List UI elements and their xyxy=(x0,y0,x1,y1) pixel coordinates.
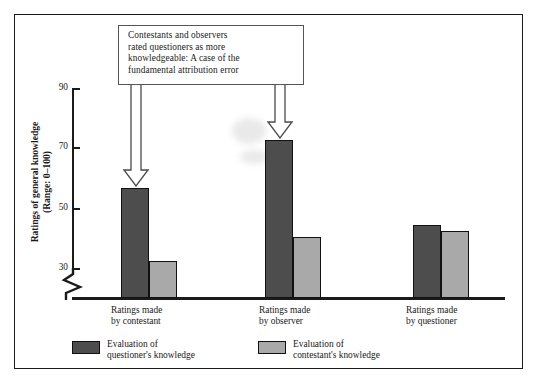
category-label-observer-line1: Ratings made xyxy=(259,305,310,316)
bar-observer-questioner-knowledge xyxy=(265,140,293,298)
category-label-contestant-line1: Ratings made xyxy=(111,305,162,316)
annotation-line-4: fundamental attribution error xyxy=(128,65,297,77)
axis-break-icon xyxy=(60,268,86,300)
annotation-line-1: Contestants and observers xyxy=(128,30,297,42)
legend-label-questioner-knowledge: Evaluation of questioner's knowledge xyxy=(107,339,195,362)
category-label-observer: Ratings made by observer xyxy=(259,305,310,328)
category-label-observer-line2: by observer xyxy=(259,316,310,327)
y-tick-90 xyxy=(72,88,80,90)
legend-item-contestant-knowledge: Evaluation of contestant's knowledge xyxy=(258,339,380,362)
bar-contestant-questioner-knowledge xyxy=(121,188,149,298)
legend-label-1-line1: Evaluation of xyxy=(107,339,195,350)
annotation-line-2: rated questioners as more xyxy=(128,42,297,54)
category-label-contestant: Ratings made by contestant xyxy=(111,305,162,328)
bar-questioner-contestant-knowledge xyxy=(441,231,469,298)
bar-questioner-questioner-knowledge xyxy=(413,225,441,298)
y-tick-50 xyxy=(72,208,80,210)
y-tick-70 xyxy=(72,147,80,149)
chart-legend: Evaluation of questioner's knowledge Eva… xyxy=(72,339,472,369)
plot-area: 90 70 50 30 Ratings of general knowledge… xyxy=(0,0,541,386)
category-label-questioner-line2: by questioner xyxy=(406,316,457,327)
bar-observer-contestant-knowledge xyxy=(293,237,321,298)
legend-label-contestant-knowledge: Evaluation of contestant's knowledge xyxy=(293,339,380,362)
legend-item-questioner-knowledge: Evaluation of questioner's knowledge xyxy=(72,339,195,362)
y-axis-title: Ratings of general knowledge (Range: 0–1… xyxy=(29,97,53,267)
y-axis-title-range: (Range: 0–100) xyxy=(41,97,53,267)
callout-arrow-left-icon xyxy=(123,84,149,188)
legend-label-2-line2: contestant's knowledge xyxy=(293,350,380,361)
category-label-contestant-line2: by contestant xyxy=(111,316,162,327)
legend-swatch-light-icon xyxy=(258,341,286,354)
y-axis-title-main: Ratings of general knowledge xyxy=(29,97,41,267)
legend-swatch-dark-icon xyxy=(72,341,100,354)
legend-label-2-line1: Evaluation of xyxy=(293,339,380,350)
bar-contestant-contestant-knowledge xyxy=(149,261,177,298)
annotation-callout: Contestants and observers rated question… xyxy=(118,25,304,85)
chart-figure: 90 70 50 30 Ratings of general knowledge… xyxy=(0,0,541,386)
annotation-line-3: knowledgeable: A case of the xyxy=(128,53,297,65)
category-label-questioner: Ratings made by questioner xyxy=(406,305,457,328)
category-label-questioner-line1: Ratings made xyxy=(406,305,457,316)
legend-label-1-line2: questioner's knowledge xyxy=(107,350,195,361)
y-axis-line xyxy=(72,88,74,268)
callout-arrow-right-icon xyxy=(267,84,293,140)
y-tick-label-90: 90 xyxy=(46,82,68,92)
